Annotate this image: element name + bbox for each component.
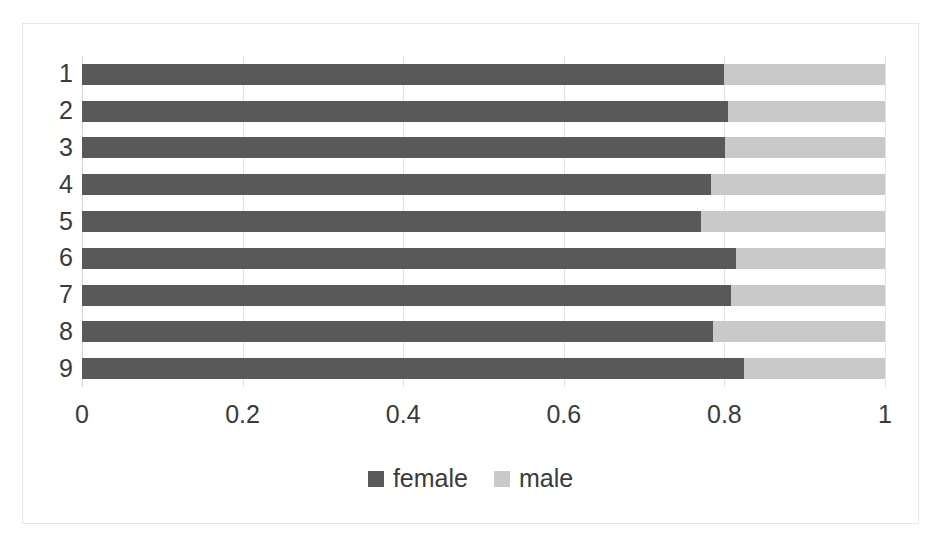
x-axis-tick-labels: 00.20.40.60.81 [23, 402, 918, 436]
bar-segment-female[interactable] [82, 101, 728, 122]
category-label: 9 [31, 356, 73, 381]
bar-row[interactable] [82, 211, 885, 232]
bar-row[interactable] [82, 64, 885, 85]
legend-swatch-icon [368, 471, 384, 487]
bar-segment-male[interactable] [713, 321, 885, 342]
bar-segment-male[interactable] [728, 101, 885, 122]
bar-segment-female[interactable] [82, 248, 736, 269]
bar-segment-male[interactable] [724, 64, 885, 85]
legend-item-male[interactable]: male [494, 466, 573, 491]
bar-row[interactable] [82, 101, 885, 122]
bar-segment-male[interactable] [701, 211, 885, 232]
category-label: 4 [31, 172, 73, 197]
bar-row[interactable] [82, 321, 885, 342]
category-label: 1 [31, 61, 73, 86]
category-label: 8 [31, 319, 73, 344]
x-tick-label: 1 [878, 402, 892, 427]
category-label: 2 [31, 98, 73, 123]
bar-row[interactable] [82, 248, 885, 269]
bar-segment-female[interactable] [82, 174, 711, 195]
bar-row[interactable] [82, 358, 885, 379]
bar-segment-female[interactable] [82, 64, 724, 85]
category-label: 3 [31, 135, 73, 160]
bar-segment-male[interactable] [731, 285, 885, 306]
x-tick-label: 0.8 [707, 402, 742, 427]
x-tick-label: 0 [75, 402, 89, 427]
bar-segment-female[interactable] [82, 285, 731, 306]
bar-segment-male[interactable] [711, 174, 885, 195]
bar-segment-male[interactable] [725, 137, 885, 158]
bar-segment-male[interactable] [744, 358, 885, 379]
chart-frame: 123456789 00.20.40.60.81 femalemale [22, 23, 919, 524]
bar-row[interactable] [82, 174, 885, 195]
category-label: 5 [31, 209, 73, 234]
bar-row[interactable] [82, 285, 885, 306]
gridline-1 [885, 56, 886, 387]
category-label: 7 [31, 282, 73, 307]
chart-legend: femalemale [23, 466, 918, 491]
bar-row[interactable] [82, 137, 885, 158]
plot-area [82, 56, 885, 387]
x-tick-label: 0.4 [386, 402, 421, 427]
bar-segment-female[interactable] [82, 321, 713, 342]
legend-item-female[interactable]: female [368, 466, 468, 491]
legend-swatch-icon [494, 471, 510, 487]
bar-segment-male[interactable] [736, 248, 885, 269]
bar-segment-female[interactable] [82, 211, 701, 232]
bar-segment-female[interactable] [82, 358, 744, 379]
x-tick-label: 0.2 [225, 402, 260, 427]
category-label: 6 [31, 245, 73, 270]
bar-segment-female[interactable] [82, 137, 725, 158]
legend-label: male [519, 466, 573, 491]
legend-label: female [393, 466, 468, 491]
x-tick-label: 0.6 [546, 402, 581, 427]
